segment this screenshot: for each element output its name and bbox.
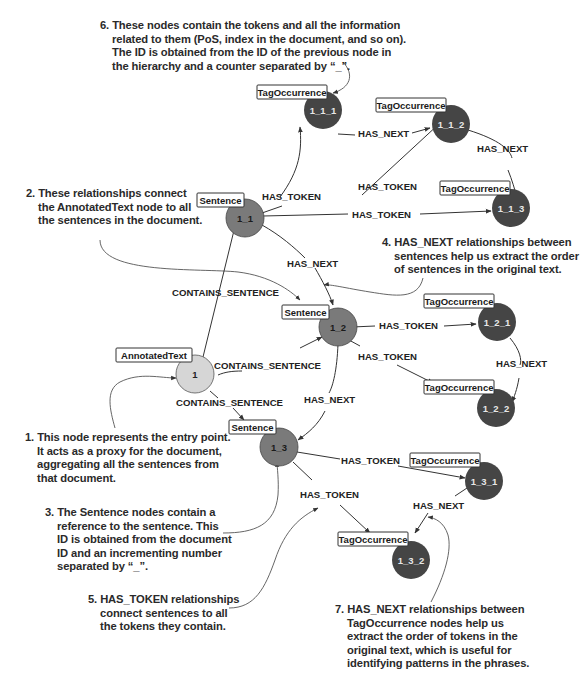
- annotation-4-has-next-sentences: 4. HAS_NEXT relationships between senten…: [382, 236, 579, 277]
- node-label: TagOccurrence: [377, 100, 446, 111]
- node-label: TagOccurrence: [441, 183, 510, 194]
- rel-has-next-s1: HAS_NEXT: [287, 258, 338, 269]
- rel-has-token-1-2-1: HAS_TOKEN: [379, 320, 438, 331]
- node-label: AnnotatedText: [121, 350, 188, 361]
- annotation-3-sentence-nodes: 3. The Sentence nodes contain a referenc…: [45, 506, 232, 574]
- node-id: 1_2: [330, 322, 346, 333]
- node-id: 1_1_3: [498, 203, 524, 214]
- rel-contains-sentence-1: CONTAINS_SENTENCE: [172, 287, 280, 298]
- rel-has-token-1-3-2: HAS_TOKEN: [300, 489, 359, 500]
- annotation-7-has-next-tokens: 7. HAS_NEXT relationships between TagOcc…: [335, 603, 529, 671]
- rel-contains-sentence-2: CONTAINS_SENTENCE: [214, 360, 322, 371]
- annotation-1-entry-point: 1. This node represents the entry point.…: [25, 431, 231, 485]
- annotation-6-tag-occurrence-nodes: 6. These nodes contain the tokens and al…: [100, 19, 406, 73]
- node-annotated-text[interactable]: 1 AnnotatedText: [116, 348, 214, 393]
- node-label: Sentence: [199, 195, 241, 206]
- node-id: 1_2_1: [484, 317, 511, 328]
- node-id: 1_1_1: [310, 105, 337, 116]
- node-label: TagOccurrence: [339, 534, 408, 545]
- node-label: Sentence: [231, 422, 273, 433]
- graph-diagram: CONTAINS_SENTENCE CONTAINS_SENTENCE CONT…: [0, 0, 588, 679]
- rel-has-token-1-3-1: HAS_TOKEN: [341, 455, 400, 466]
- rel-has-next-1-1-1: HAS_NEXT: [358, 128, 409, 139]
- node-label: TagOccurrence: [258, 87, 327, 98]
- rel-has-next-s2: HAS_NEXT: [304, 394, 355, 405]
- node-label: TagOccurrence: [411, 455, 480, 466]
- node-sentence-1-3[interactable]: 1_3 Sentence: [229, 420, 298, 466]
- node-tag-occurrence-1-1-1[interactable]: 1_1_1 TagOccurrence: [257, 85, 342, 129]
- node-tag-occurrence-1-2-2[interactable]: 1_2_2 TagOccurrence: [424, 380, 515, 427]
- node-id: 1: [192, 369, 198, 380]
- node-label: Sentence: [284, 307, 326, 318]
- rel-has-next-1-1-2: HAS_NEXT: [477, 143, 528, 154]
- node-id: 1_1: [237, 213, 254, 224]
- node-id: 1_2_2: [483, 403, 509, 414]
- node-id: 1_3_1: [471, 476, 498, 487]
- node-label: TagOccurrence: [425, 296, 494, 307]
- rel-has-next-1-2-1: HAS_NEXT: [496, 358, 547, 369]
- rel-contains-sentence-3: CONTAINS_SENTENCE: [176, 397, 284, 408]
- rel-has-token-1-1-3: HAS_TOKEN: [352, 209, 411, 220]
- rel-has-token-1-2-2: HAS_TOKEN: [358, 351, 417, 362]
- annotation-5-has-token: 5. HAS_TOKEN relationships connect sente…: [88, 593, 239, 634]
- node-label: TagOccurrence: [425, 382, 494, 393]
- node-tag-occurrence-1-2-1[interactable]: 1_2_1 TagOccurrence: [424, 294, 516, 341]
- node-id: 1_3: [271, 442, 287, 453]
- node-id: 1_3_2: [398, 555, 424, 566]
- annotation-2-contains-sentence: 2. These relationships connect the Annot…: [26, 187, 202, 228]
- node-tag-occurrence-1-1-3[interactable]: 1_1_3 TagOccurrence: [440, 181, 530, 227]
- node-sentence-1-1[interactable]: 1_1 Sentence: [197, 193, 264, 237]
- node-tag-occurrence-1-3-2[interactable]: 1_3_2 TagOccurrence: [338, 532, 430, 579]
- node-id: 1_1_2: [438, 119, 464, 130]
- rel-has-token-1-1-2: HAS_TOKEN: [358, 181, 417, 192]
- rel-has-next-1-3-1: HAS_NEXT: [413, 500, 464, 511]
- node-sentence-1-2[interactable]: 1_2 Sentence: [282, 305, 357, 346]
- rel-has-token-1-1-1: HAS_TOKEN: [262, 191, 321, 202]
